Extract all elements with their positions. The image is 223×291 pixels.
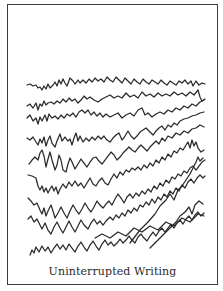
scribble-line-2 bbox=[27, 90, 205, 110]
figure-caption: Uninterrupted Writing bbox=[7, 265, 218, 278]
scribble-line-5 bbox=[29, 125, 204, 172]
scribble-line-1 bbox=[27, 77, 205, 90]
scribble-lines bbox=[0, 0, 223, 291]
scribble-line-8 bbox=[28, 175, 205, 234]
